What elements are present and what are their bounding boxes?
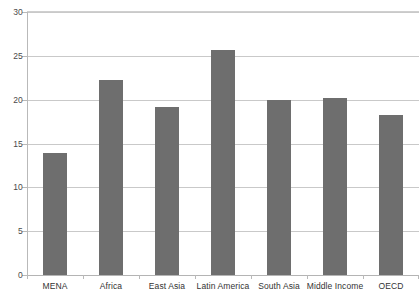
category-axis-tick bbox=[27, 275, 28, 279]
category-axis-label: Africa bbox=[100, 281, 122, 291]
bar bbox=[99, 80, 123, 275]
category-axis-label: MENA bbox=[43, 281, 68, 291]
category-axis-tick bbox=[195, 275, 196, 279]
plot-area bbox=[27, 12, 419, 275]
category-axis-tick bbox=[139, 275, 140, 279]
bar-chart: 051015202530 MENAAfricaEast AsiaLatin Am… bbox=[0, 0, 419, 299]
value-axis-label: 5 bbox=[18, 226, 23, 236]
value-axis-label: 25 bbox=[13, 51, 23, 61]
category-axis-label: Latin America bbox=[197, 281, 250, 291]
value-axis-label: 30 bbox=[13, 7, 23, 17]
category-axis-tick bbox=[251, 275, 252, 279]
bar bbox=[43, 153, 67, 275]
value-axis-label: 10 bbox=[13, 182, 23, 192]
category-axis-tick bbox=[83, 275, 84, 279]
category-axis-label: OECD bbox=[379, 281, 404, 291]
category-axis-line bbox=[27, 275, 419, 276]
chart-title bbox=[0, 0, 419, 7]
bar bbox=[267, 100, 291, 275]
value-axis-line bbox=[27, 12, 28, 276]
bar bbox=[323, 98, 347, 275]
value-axis-label: 15 bbox=[13, 139, 23, 149]
gridline bbox=[27, 12, 419, 13]
category-axis-tick bbox=[307, 275, 308, 279]
value-axis-label: 20 bbox=[13, 95, 23, 105]
category-axis-label: South Asia bbox=[258, 281, 300, 291]
value-axis-label: 0 bbox=[18, 270, 23, 280]
bar bbox=[155, 107, 179, 275]
bar bbox=[379, 115, 403, 275]
category-axis-label: Middle Income bbox=[307, 281, 364, 291]
bar bbox=[211, 50, 235, 275]
category-axis-tick bbox=[363, 275, 364, 279]
category-axis-label: East Asia bbox=[149, 281, 185, 291]
